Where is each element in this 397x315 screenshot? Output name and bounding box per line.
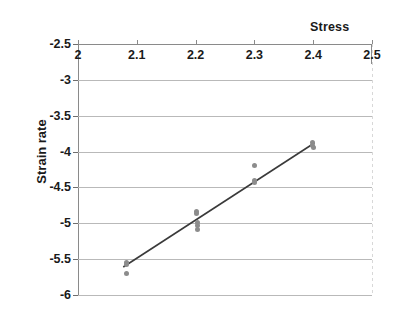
y-tick-mark [73,295,78,296]
data-point [311,145,316,150]
y-tick-label: -3 [60,73,71,87]
y-axis-title: Strain rate [34,77,49,227]
plot-area: -2.5-3-3.5-4-4.5-5-5.5-6 22.12.22.32.42.… [78,44,372,295]
y-tick-label: -4 [60,145,71,159]
y-tick-label: -3.5 [49,109,71,123]
plot-right-edge-dashed [372,44,373,295]
gridline [78,295,372,296]
data-point [124,262,129,267]
data-points-layer [78,44,372,295]
data-point [252,180,257,185]
y-tick-label: -6 [60,288,71,302]
data-point [195,227,200,232]
data-point [124,271,129,276]
y-tick-label: -4.5 [49,180,71,194]
y-tick-label: -5.5 [49,252,71,266]
chart-figure: Stress Strain rate -2.5-3-3.5-4-4.5-5-5.… [0,0,397,315]
y-tick-label: -5 [60,216,71,230]
y-tick-label: -2.5 [49,37,71,51]
x-tick-mark [372,40,373,44]
chart-title: Stress [310,20,349,34]
data-point [252,163,257,168]
data-point [194,211,199,216]
